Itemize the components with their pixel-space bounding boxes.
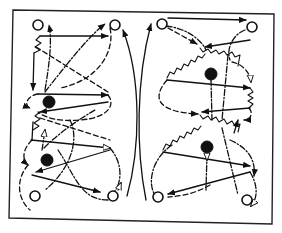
player-circle [242,195,252,205]
player-circle [108,191,118,201]
ball-player [205,68,217,80]
ball-player [41,154,53,166]
player-circle [247,22,257,32]
dribble-zigzag [34,36,41,53]
player-circle [110,20,120,30]
right-half [151,18,256,206]
center-arcs [123,24,151,200]
left-half [20,24,121,210]
cut-arrow [33,53,34,90]
drill-diagram [0,0,282,233]
player-circle [153,192,163,202]
ball-player [43,96,55,108]
player-circle [33,20,43,30]
player-circle [157,19,167,29]
ball-player [201,141,213,153]
player-circle [30,191,40,201]
